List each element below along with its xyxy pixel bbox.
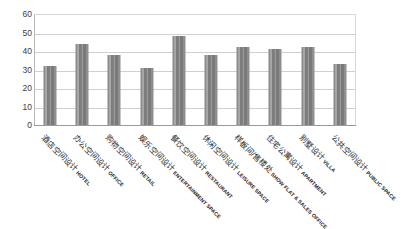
bar [301, 47, 314, 125]
y-tick-label: 10 [4, 102, 32, 111]
bars-layer [34, 14, 356, 125]
x-label-slot: 娱乐空间设计ENTERTAINMENT SPACE [131, 127, 163, 207]
bar-slot [34, 14, 66, 125]
x-label-slot: 购物空间设计RETAIL [98, 127, 130, 207]
bar-slot [292, 14, 324, 125]
x-label-slot: 办公空间设计OFFICE [66, 127, 98, 207]
bar-slot [195, 14, 227, 125]
bar [205, 55, 218, 125]
y-tick-label: 60 [4, 10, 32, 19]
x-label-slot: 别墅设计VILLA [292, 127, 324, 207]
x-label-slot: 样板间/售楼处SHOW FLAT & SALES OFFICE [227, 127, 259, 207]
x-axis-labels: 酒店空间设计HOTEL 办公空间设计OFFICE 购物空间设计RETAIL 娱乐… [34, 127, 356, 207]
y-tick-label: 30 [4, 65, 32, 74]
bar [44, 66, 57, 125]
y-tick-label: 50 [4, 28, 32, 37]
y-tick-label: 0 [4, 121, 32, 130]
bar-slot [66, 14, 98, 125]
bar [76, 44, 89, 125]
x-label-slot: 休闲空间设计LEISURE SPACE [195, 127, 227, 207]
x-label-slot: 餐饮空间设计RESTAURANT [163, 127, 195, 207]
y-axis: 60 50 40 30 20 10 0 [0, 0, 32, 140]
bar-slot [227, 14, 259, 125]
x-label-en: PUBLIC SPACE [365, 170, 397, 202]
x-label-cn: 别墅设计 [297, 133, 326, 162]
bar-slot [259, 14, 291, 125]
bar-slot [324, 14, 356, 125]
bar [108, 55, 121, 125]
bar-slot [163, 14, 195, 125]
x-label-slot: 住宅公寓设计APARTMENT [259, 127, 291, 207]
x-label-slot: 酒店空间设计HOTEL [34, 127, 66, 207]
x-label-cn: 公共空间设计 [329, 133, 369, 173]
x-label-slot: 公共空间设计PUBLIC SPACE [324, 127, 356, 207]
bar [269, 49, 282, 125]
bar-slot [131, 14, 163, 125]
x-axis-tick-label: 公共空间设计PUBLIC SPACE [328, 129, 401, 204]
bar [140, 68, 153, 125]
y-tick-label: 20 [4, 84, 32, 93]
bar [333, 64, 346, 125]
bar [237, 47, 250, 125]
bar-slot [98, 14, 130, 125]
x-axis-baseline [34, 125, 356, 126]
y-tick-label: 40 [4, 47, 32, 56]
bar [172, 36, 185, 125]
